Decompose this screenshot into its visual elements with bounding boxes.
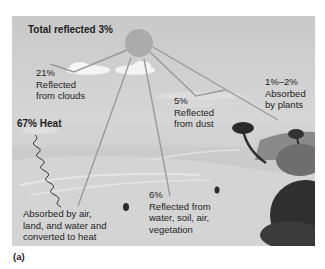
clouds-label: 21% Reflected from clouds	[36, 67, 85, 102]
absorbed-text-line2: land, and water and	[23, 220, 106, 232]
clouds-text-line1: Reflected	[36, 79, 85, 91]
surface-text-line3: vegetation	[149, 224, 211, 236]
clouds-text-line2: from clouds	[36, 90, 85, 102]
total-reflected-label: Total reflected 3%	[28, 24, 113, 36]
dust-label: 5% Reflected from dust	[174, 95, 214, 130]
absorbed-label: Absorbed by air, land, and water and con…	[23, 208, 106, 243]
surface-text-line1: Reflected from	[149, 201, 211, 213]
plants-label: 1%–2% Absorbed by plants	[265, 76, 306, 111]
surface-percent: 6%	[149, 189, 211, 201]
absorbed-text-line3: converted to heat	[23, 231, 106, 243]
plants-percent: 1%–2%	[265, 76, 306, 88]
surface-reflection-label: 6% Reflected from water, soil, air, vege…	[149, 189, 211, 235]
dust-percent: 5%	[174, 95, 214, 107]
figure-caption: (a)	[13, 251, 25, 262]
surface-text-line2: water, soil, air,	[149, 212, 211, 224]
absorbed-text-line1: Absorbed by air,	[23, 208, 106, 220]
sun-icon	[125, 29, 153, 57]
coconut-icon	[123, 203, 129, 211]
plants-text-line2: by plants	[265, 99, 306, 111]
heat-label: 67% Heat	[17, 118, 61, 130]
clouds-percent: 21%	[36, 67, 85, 79]
plants-text-line1: Absorbed	[265, 88, 306, 100]
coconut-icon	[215, 187, 220, 194]
dust-text-line2: from dust	[174, 118, 214, 130]
dust-text-line1: Reflected	[174, 107, 214, 119]
